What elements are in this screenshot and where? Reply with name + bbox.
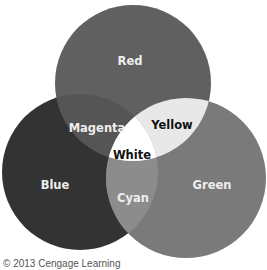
label-red: Red — [118, 54, 143, 68]
label-yellow: Yellow — [150, 118, 193, 132]
venn-diagram: Red Magenta Yellow White Blue Cyan Green — [0, 0, 267, 270]
label-cyan: Cyan — [117, 191, 149, 205]
label-blue: Blue — [41, 178, 70, 192]
label-white: White — [113, 148, 151, 162]
copyright-notice: © 2013 Cengage Learning — [3, 258, 120, 269]
label-magenta: Magenta — [69, 121, 126, 135]
label-green: Green — [193, 178, 232, 192]
